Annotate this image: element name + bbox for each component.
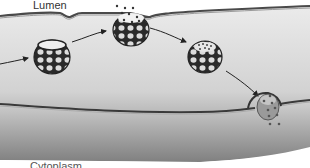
vesicle-loaded: [188, 41, 222, 73]
cytoplasm-label: Cytoplasm: [30, 160, 82, 168]
vesicle-release: [113, 5, 149, 46]
vesicle-intact: [34, 40, 70, 74]
vesicle-transport-diagram: [0, 0, 310, 168]
diagram-canvas: Lumen Cytoplasm: [0, 0, 310, 168]
lumen-label: Lumen: [33, 0, 67, 11]
